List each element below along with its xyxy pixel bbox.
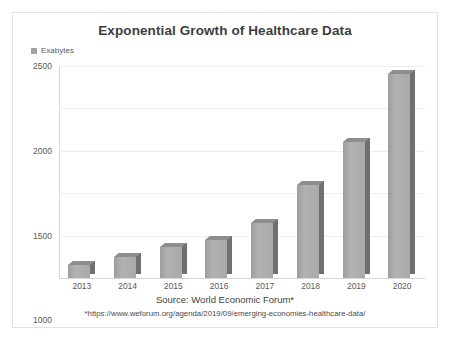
legend-label-exabytes: Exabytes xyxy=(41,46,74,55)
bar-top xyxy=(160,243,187,247)
source-url-note: *https://www.weforum.org/agenda/2019/09/… xyxy=(13,309,437,318)
bar-slot xyxy=(334,66,380,278)
bar-side xyxy=(227,236,232,274)
bar-face xyxy=(160,247,182,278)
bar-2016[interactable] xyxy=(205,240,227,278)
bar-2013[interactable] xyxy=(68,265,90,278)
bar-side xyxy=(273,219,278,274)
x-axis-tick-labels: 20132014201520162017201820192020 xyxy=(59,281,425,295)
x-axis-tick-2019: 2019 xyxy=(334,281,380,291)
bar-side xyxy=(365,138,370,274)
x-axis-tick-2013: 2013 xyxy=(59,281,105,291)
bar-slot xyxy=(59,66,105,278)
x-axis-tick-2016: 2016 xyxy=(196,281,242,291)
bar-2020[interactable] xyxy=(388,74,410,278)
chart-card: Exponential Growth of Healthcare Data Ex… xyxy=(12,12,438,328)
legend-swatch-icon xyxy=(31,48,37,54)
x-axis-tick-2020: 2020 xyxy=(379,281,425,291)
x-axis-tick-2014: 2014 xyxy=(105,281,151,291)
plot-area: 05001000150020002500 xyxy=(59,66,425,278)
bar-2017[interactable] xyxy=(251,223,273,278)
bar-slot xyxy=(379,66,425,278)
bar-slot xyxy=(196,66,242,278)
bar-face xyxy=(297,185,319,278)
chart-title: Exponential Growth of Healthcare Data xyxy=(13,23,437,38)
chart-legend: Exabytes xyxy=(31,46,74,55)
bar-face xyxy=(343,142,365,278)
x-axis-tick-2015: 2015 xyxy=(151,281,197,291)
bar-top xyxy=(251,219,278,223)
bar-face xyxy=(388,74,410,278)
bar-slot xyxy=(288,66,334,278)
bar-2015[interactable] xyxy=(160,247,182,278)
bar-2018[interactable] xyxy=(297,185,319,278)
bar-side xyxy=(410,70,415,274)
bar-top xyxy=(343,138,370,142)
bar-top xyxy=(297,181,324,185)
gridline: 0 xyxy=(59,278,425,279)
x-axis-tick-2017: 2017 xyxy=(242,281,288,291)
bar-face xyxy=(114,257,136,278)
bar-slot xyxy=(105,66,151,278)
bar-slot xyxy=(151,66,197,278)
bar-face xyxy=(205,240,227,278)
bar-side xyxy=(182,243,187,274)
bar-face xyxy=(251,223,273,278)
bar-face xyxy=(68,265,90,278)
y-axis-tick-label: 1500 xyxy=(33,231,52,241)
y-axis-tick-label: 2000 xyxy=(33,146,52,156)
bar-top xyxy=(114,253,141,257)
bar-2014[interactable] xyxy=(114,257,136,278)
y-axis-tick-label: 2500 xyxy=(33,61,52,71)
bar-2019[interactable] xyxy=(343,142,365,278)
bar-series-exabytes xyxy=(59,66,425,278)
bar-side xyxy=(319,181,324,274)
x-axis-tick-2018: 2018 xyxy=(288,281,334,291)
bar-slot xyxy=(242,66,288,278)
source-note: Source: World Economic Forum* xyxy=(13,294,437,305)
